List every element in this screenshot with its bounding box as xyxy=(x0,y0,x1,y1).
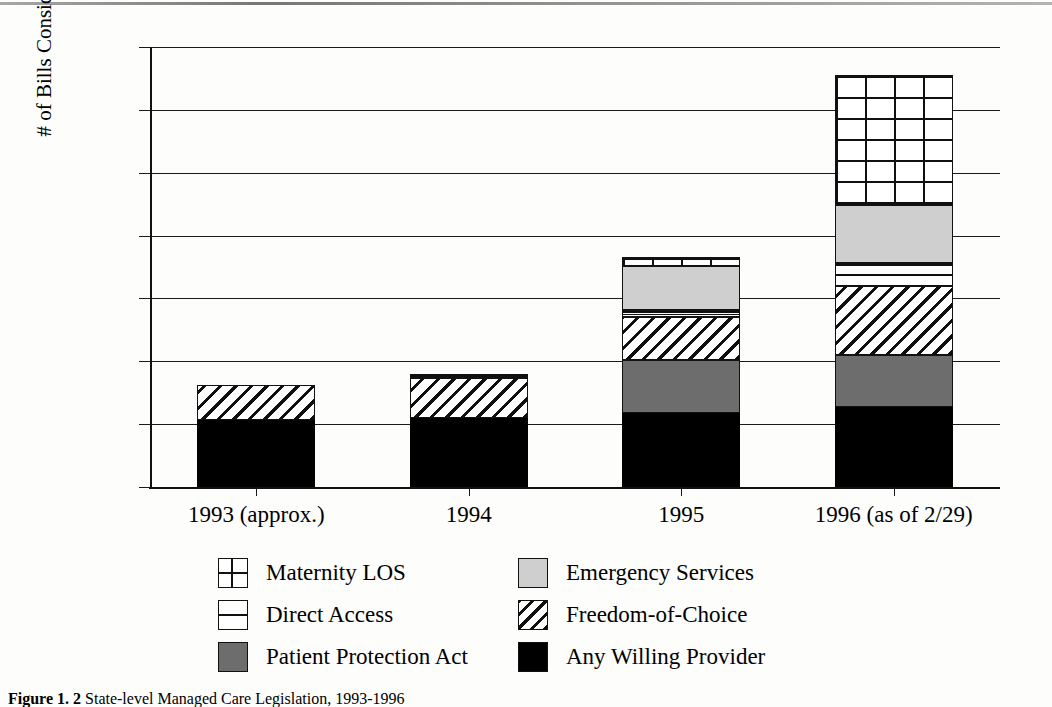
bar-segment-es xyxy=(622,266,740,310)
legend-label: Direct Access xyxy=(266,602,393,628)
plot-area: # of Bills Considered 350300250200150100… xyxy=(150,47,1000,487)
legend-label: Any Willing Provider xyxy=(566,644,765,670)
caption-label: Figure 1. 2 xyxy=(8,690,81,707)
bar-segment-da xyxy=(835,263,953,286)
bar-segment-foc xyxy=(622,317,740,360)
bar-segment-awp xyxy=(197,420,315,487)
y-axis-line xyxy=(150,47,152,488)
black-swatch-icon xyxy=(518,642,548,672)
caption-text: State-level Managed Care Legislation, 19… xyxy=(85,690,404,707)
grid-swatch-icon xyxy=(218,558,248,588)
legend-item[interactable]: Any Willing Provider xyxy=(518,642,818,672)
legend-row: Maternity LOSEmergency Services xyxy=(218,552,818,594)
bar-stack xyxy=(197,47,315,487)
legend-item[interactable]: Emergency Services xyxy=(518,558,818,588)
bar-segment-ppa xyxy=(835,355,953,407)
bar-segment-ml xyxy=(835,75,953,206)
x-axis-line xyxy=(149,487,1000,489)
x-tick xyxy=(894,487,895,496)
y-axis-title: # of Bills Considered xyxy=(32,0,57,167)
legend-row: Direct AccessFreedom-of-Choice xyxy=(218,594,818,636)
y-tick-200 xyxy=(139,236,150,237)
bar-segment-foc xyxy=(410,378,528,418)
x-axis-label: 1995 xyxy=(658,502,704,528)
x-tick xyxy=(256,487,257,496)
bar-segment-da xyxy=(410,374,528,378)
bar-segment-da xyxy=(622,310,740,318)
chart-legend: Maternity LOSEmergency ServicesDirect Ac… xyxy=(218,552,818,678)
diagonal-hatch-swatch-icon xyxy=(518,600,548,630)
bar-segment-foc xyxy=(835,286,953,355)
x-axis-label: 1993 (approx.) xyxy=(188,502,325,528)
bar-segment-ppa xyxy=(622,360,740,413)
legend-item[interactable]: Maternity LOS xyxy=(218,558,518,588)
bar-segment-awp xyxy=(410,418,528,487)
figure-managed-care-legislation: # of Bills Considered 350300250200150100… xyxy=(0,0,1052,707)
bar-stack xyxy=(835,47,953,487)
y-tick-350 xyxy=(139,47,150,48)
legend-label: Freedom-of-Choice xyxy=(566,602,747,628)
dark-gray-swatch-icon xyxy=(218,642,248,672)
bar-segment-foc xyxy=(197,385,315,420)
bar-stack xyxy=(410,47,528,487)
legend-item[interactable]: Freedom-of-Choice xyxy=(518,600,818,630)
x-axis-label: 1996 (as of 2/29) xyxy=(815,502,973,528)
bar-segment-ml xyxy=(622,257,740,266)
legend-item[interactable]: Direct Access xyxy=(218,600,518,630)
y-tick-250 xyxy=(139,173,150,174)
y-tick-150 xyxy=(139,298,150,299)
legend-item[interactable]: Patient Protection Act xyxy=(218,642,518,672)
legend-row: Patient Protection ActAny Willing Provid… xyxy=(218,636,818,678)
figure-caption: Figure 1. 2 State-level Managed Care Leg… xyxy=(8,690,1048,707)
bar-segment-es xyxy=(835,205,953,263)
horizontal-line-swatch-icon xyxy=(218,600,248,630)
bar-segment-awp xyxy=(622,413,740,487)
x-tick xyxy=(681,487,682,496)
x-axis-label: 1994 xyxy=(446,502,492,528)
y-tick-50 xyxy=(139,424,150,425)
y-tick-300 xyxy=(139,110,150,111)
legend-label: Maternity LOS xyxy=(266,560,406,586)
legend-label: Patient Protection Act xyxy=(266,644,468,670)
x-tick xyxy=(469,487,470,496)
y-tick-100 xyxy=(139,361,150,362)
bar-stack xyxy=(622,47,740,487)
light-gray-swatch-icon xyxy=(518,558,548,588)
legend-label: Emergency Services xyxy=(566,560,754,586)
bar-segment-awp xyxy=(835,407,953,487)
